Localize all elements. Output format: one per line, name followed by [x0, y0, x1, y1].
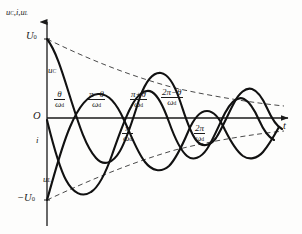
tick-2pi-minus-theta-over-wd-denominator-sub: d: [174, 100, 177, 106]
tick-2pi-minus-theta-over-wd-numerator: 2π−θ: [161, 88, 183, 97]
tick-pi-minus-theta-over-wd-numerator: π−θ: [88, 90, 105, 99]
minus-u0-base: −U: [17, 192, 32, 203]
uc-curve-label: uC: [48, 66, 56, 75]
tick-2pi-over-wd: 2π ωd: [194, 124, 205, 144]
tick-2pi-over-wd-numerator: 2π: [194, 124, 205, 133]
ul-curve-label: uL: [43, 175, 51, 184]
tick-pi-plus-theta-over-wd: π+θ ωd: [130, 90, 147, 110]
i-curve-label-base: i: [36, 135, 39, 145]
y-tick-label-minus-u0: −U0: [17, 193, 35, 204]
tick-theta-over-wd-numerator: θ: [54, 90, 65, 99]
tick-2pi-minus-theta-over-wd: 2π−θ ωd: [161, 88, 183, 108]
figure-canvas: uC,i,uL U0 −U0 O t uC i uL θ ωd π−θ ωd π…: [0, 0, 302, 234]
tick-pi-over-wd-denominator-sub: d: [129, 136, 132, 142]
y-axis-label-ul-sub: L: [25, 10, 28, 16]
minus-u0-sub: 0: [32, 195, 35, 202]
origin-label: O: [33, 111, 41, 122]
tick-pi-minus-theta-over-wd-denominator-sub: d: [98, 102, 101, 108]
tick-pi-over-wd: π ωd: [122, 124, 133, 144]
u0-sub: 0: [34, 33, 37, 40]
waveform-plot: [0, 0, 302, 234]
uc-curve-label-sub: C: [53, 68, 57, 74]
tick-pi-minus-theta-over-wd: π−θ ωd: [88, 90, 105, 110]
tick-pi-over-wd-numerator: π: [122, 124, 133, 133]
tick-theta-over-wd: θ ωd: [54, 90, 65, 110]
i-curve-label: i: [36, 136, 39, 145]
y-axis-label: uC,i,uL: [6, 8, 28, 17]
u0-base: U: [26, 30, 34, 41]
x-axis-label: t: [283, 121, 286, 132]
ul-curve-label-sub: L: [48, 177, 51, 183]
lower-envelope: [47, 131, 284, 200]
tick-pi-plus-theta-over-wd-numerator: π+θ: [130, 90, 147, 99]
y-tick-label-u0: U0: [26, 31, 37, 42]
tick-2pi-over-wd-denominator-sub: d: [201, 136, 204, 142]
tick-theta-over-wd-denominator-sub: d: [61, 102, 64, 108]
tick-pi-plus-theta-over-wd-denominator-sub: d: [140, 102, 143, 108]
